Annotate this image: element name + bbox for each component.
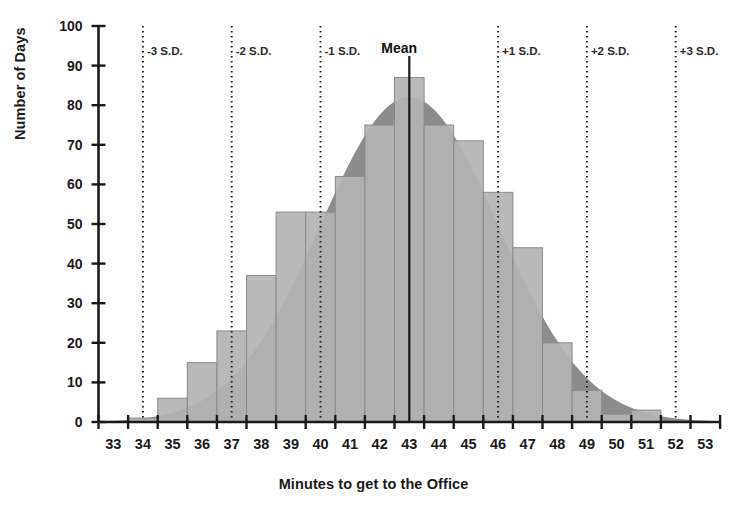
sd-annotation-label: -1 S.D. xyxy=(325,45,361,57)
mean-annotation-label: Mean xyxy=(381,41,417,55)
histogram-bar xyxy=(454,141,484,422)
y-tick-label: 100 xyxy=(43,19,83,33)
y-tick-label: 30 xyxy=(43,296,83,310)
chart-canvas xyxy=(0,0,747,508)
histogram-bar xyxy=(187,363,217,422)
y-tick-label: 20 xyxy=(43,336,83,350)
y-tick-label: 10 xyxy=(43,375,83,389)
y-tick-label: 80 xyxy=(43,98,83,112)
histogram-bar xyxy=(276,212,306,422)
sd-annotation-label: +2 S.D. xyxy=(591,45,630,57)
x-tick-label: 53 xyxy=(688,436,722,452)
histogram-bar xyxy=(631,410,661,422)
histogram-bar xyxy=(543,343,573,422)
sd-annotation-label: -3 S.D. xyxy=(147,45,183,57)
y-tick-label: 0 xyxy=(43,415,83,429)
y-tick-label: 90 xyxy=(43,59,83,73)
y-tick-label: 70 xyxy=(43,138,83,152)
histogram-bar xyxy=(335,176,365,422)
histogram-bar xyxy=(247,275,277,422)
sd-annotation-label: -2 S.D. xyxy=(236,45,272,57)
y-tick-label: 60 xyxy=(43,177,83,191)
sd-annotation-label: +3 S.D. xyxy=(680,45,719,57)
histogram-bar xyxy=(365,125,395,422)
histogram-chart: Number of Days Minutes to get to the Off… xyxy=(0,0,747,508)
histogram-bar xyxy=(513,248,543,422)
histogram-bar xyxy=(424,125,454,422)
y-tick-label: 40 xyxy=(43,257,83,271)
sd-annotation-label: +1 S.D. xyxy=(502,45,541,57)
bars-layer xyxy=(128,77,661,422)
y-tick-label: 50 xyxy=(43,217,83,231)
histogram-bar xyxy=(158,398,188,422)
